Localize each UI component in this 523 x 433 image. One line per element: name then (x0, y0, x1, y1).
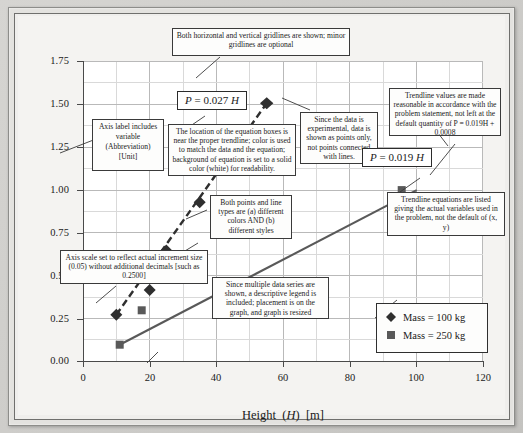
y-axis-label: 1.00 (27, 185, 69, 195)
x-axis-title-paren2: ) (296, 408, 303, 422)
equation-body-250kg: = 0.019 (379, 151, 415, 163)
x-axis-tick (150, 361, 151, 367)
gridline-horizontal-major (83, 61, 483, 62)
x-axis-label: 20 (130, 373, 170, 383)
y-axis-tick (77, 190, 83, 191)
legend-label-250kg: Mass = 250 kg (403, 330, 465, 341)
x-axis-title: Height (H) [m] (242, 408, 324, 423)
y-axis-tick (77, 61, 83, 62)
y-axis-label: 0.00 (27, 356, 69, 366)
legend-item-100kg: Mass = 100 kg (383, 308, 479, 326)
x-axis-label: 40 (196, 373, 236, 383)
x-axis-tick (216, 361, 217, 367)
x-axis-tick (416, 361, 417, 367)
note-trendline-equations: Trendline equations are listed giving th… (387, 192, 505, 236)
y-axis-label: 0.25 (27, 314, 69, 324)
x-axis-title-unit: [m] (306, 408, 324, 422)
x-axis-title-name: Height (242, 408, 276, 422)
x-axis-tick (350, 361, 351, 367)
equation-var-p2: P (370, 151, 377, 163)
equation-box-250kg: P = 0.019 H (362, 148, 432, 167)
square-marker-icon (383, 329, 399, 341)
note-gridlines: Both horizontal and vertical gridlines a… (172, 28, 350, 56)
diamond-marker-icon (383, 311, 399, 323)
note-legend: Since multiple data series are shown, a … (212, 277, 329, 319)
equation-box-100kg: P = 0.027 H (177, 91, 247, 110)
y-axis-label: 1.50 (27, 99, 69, 109)
x-axis-tick (483, 361, 484, 367)
scanned-page: 1.75 1.50 1.25 1.00 0.75 0.50 0.25 0.00 … (0, 0, 523, 433)
x-axis-tick (283, 361, 284, 367)
y-axis-label: 1.75 (27, 56, 69, 66)
y-axis-line (83, 61, 84, 362)
y-axis-tick (77, 233, 83, 234)
y-axis-tick (77, 104, 83, 105)
y-axis-tick (77, 319, 83, 320)
x-axis-label: 120 (463, 373, 503, 383)
legend: Mass = 100 kg Mass = 250 kg (376, 303, 488, 353)
y-axis-label: 0.75 (27, 228, 69, 238)
gridline-horizontal-minor (83, 82, 483, 83)
legend-label-100kg: Mass = 100 kg (403, 312, 465, 323)
equation-var-p: P (185, 94, 192, 106)
equation-body-100kg: = 0.027 (194, 94, 230, 106)
equation-var-h: H (231, 94, 239, 106)
x-axis-label: 0 (63, 373, 103, 383)
note-equation-location: The location of the equation boxes is ne… (168, 124, 296, 176)
note-trendline-values: Trendline values are made reasonable in … (389, 88, 501, 136)
y-axis-tick (77, 147, 83, 148)
equation-var-h2: H (416, 151, 424, 163)
y-axis-label: 1.25 (27, 142, 69, 152)
note-axis-label: Axis label includes variable (Abbreviati… (92, 119, 164, 171)
legend-item-250kg: Mass = 250 kg (383, 326, 479, 344)
x-axis-tick (83, 361, 84, 367)
note-axis-scale: Axis scale set to reflect actual increme… (60, 250, 208, 284)
x-axis-label: 80 (330, 373, 370, 383)
gridline-horizontal-major (83, 190, 483, 191)
x-axis-label: 100 (396, 373, 436, 383)
note-points-and-lines: Both points and line types are (a) diffe… (210, 195, 292, 239)
x-axis-label: 60 (263, 373, 303, 383)
